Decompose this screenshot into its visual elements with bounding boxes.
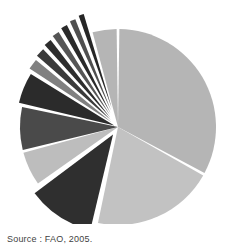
pie-slice-group — [19, 14, 216, 224]
pie-chart-svg — [0, 0, 239, 224]
source-note: Source : FAO, 2005. — [7, 234, 92, 244]
pie-chart-figure: Source : FAO, 2005. — [0, 0, 239, 250]
